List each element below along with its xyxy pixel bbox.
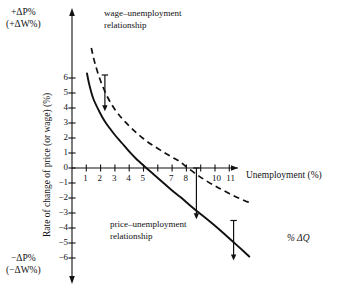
x-axis-arrowhead <box>231 165 238 171</box>
y-tick-label: 0 <box>54 162 68 172</box>
x-axis-title: Unemployment (%) <box>246 170 322 180</box>
wage-curve-annotation: wage–unemployment relationship <box>104 8 181 31</box>
bottom-corner-line-1: −ΔP% <box>6 252 41 264</box>
x-tick-label: 1 <box>83 173 88 183</box>
gap-arrow-label: % ΔQ <box>287 233 310 245</box>
x-tick-label: 11 <box>226 173 235 183</box>
x-tick-label: 7 <box>169 173 174 183</box>
gap-arrow-head <box>194 213 199 219</box>
price-annotation-line-2: relationship <box>110 231 186 243</box>
y-tick-label: −5 <box>54 237 68 247</box>
phillips-curve-figure <box>0 0 347 297</box>
y-axis-title: Rate of change of price (or wage) (%) <box>42 93 52 237</box>
y-axis-arrowhead-up <box>69 8 75 16</box>
y-tick-label: −1 <box>54 177 68 187</box>
x-tick-label: 8 <box>183 173 188 183</box>
y-tick-label: −2 <box>54 192 68 202</box>
y-tick-label: −6 <box>54 252 68 262</box>
price-annotation-line-1: price–unemployment <box>110 219 186 231</box>
price-curve-annotation: price–unemployment relationship <box>110 219 186 242</box>
y-tick-label: 5 <box>54 87 68 97</box>
y-tick-label: −3 <box>54 207 68 217</box>
axes-group <box>69 8 238 284</box>
top-left-corner-label: +ΔP% (+ΔW%) <box>6 6 41 30</box>
gap-arrow-head <box>231 255 236 261</box>
bottom-corner-line-2: (−ΔW%) <box>6 264 41 276</box>
y-tick-label: 6 <box>54 72 68 82</box>
gap-arrow-head <box>102 105 107 111</box>
x-tick-label: 4 <box>126 173 131 183</box>
x-tick-label: 10 <box>212 173 221 183</box>
top-corner-line-2: (+ΔW%) <box>6 18 41 30</box>
y-tick-label: 1 <box>54 147 68 157</box>
y-tick-label: 2 <box>54 132 68 142</box>
x-tick-label: 2 <box>98 173 103 183</box>
y-axis-arrowhead-down <box>69 276 75 284</box>
x-tick-label: 3 <box>112 173 117 183</box>
bottom-left-corner-label: −ΔP% (−ΔW%) <box>6 252 41 276</box>
top-corner-line-1: +ΔP% <box>6 6 41 18</box>
x-tick-label: 5 <box>141 173 146 183</box>
wage-annotation-line-2: relationship <box>104 20 181 32</box>
y-tick-label: 3 <box>54 117 68 127</box>
y-tick-label: −4 <box>54 222 68 232</box>
y-tick-label: 4 <box>54 102 68 112</box>
wage-annotation-line-1: wage–unemployment <box>104 8 181 20</box>
